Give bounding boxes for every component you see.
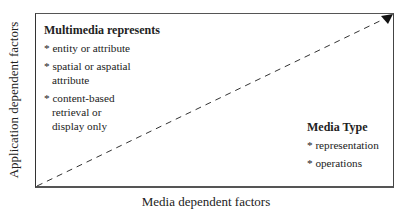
block-heading: Multimedia represents: [44, 23, 174, 37]
multimedia-represents-block: Multimedia represents * entity or attrib…: [44, 23, 174, 137]
list-item: * representation: [307, 138, 397, 152]
x-axis-label: Media dependent factors: [0, 194, 412, 210]
media-type-block: Media Type * representation * operations: [307, 120, 397, 174]
list-item: * content-based retrieval or display onl…: [44, 91, 132, 133]
list-item: * operations: [307, 156, 397, 170]
list-item: * spatial or aspatial attribute: [44, 59, 147, 87]
block-heading: Media Type: [307, 120, 397, 134]
arrowhead-icon: [381, 14, 393, 24]
y-axis-label-text: Application dependent factors: [6, 22, 22, 179]
list-item: * entity or attribute: [44, 41, 174, 55]
